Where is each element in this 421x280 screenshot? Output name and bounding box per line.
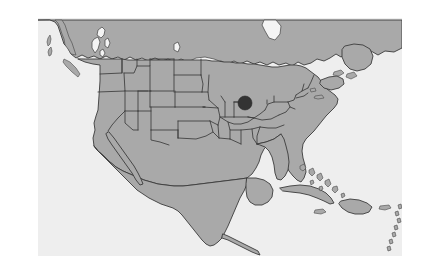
lesser-antilles-7 bbox=[387, 246, 391, 251]
location-marker[interactable] bbox=[238, 96, 252, 110]
cape-cod bbox=[310, 88, 316, 92]
haida-gwaii-south bbox=[48, 47, 52, 56]
bahamas-5 bbox=[332, 186, 338, 193]
yucatan-peninsula bbox=[246, 178, 273, 205]
bahamas-2 bbox=[309, 168, 315, 176]
puerto-rico bbox=[379, 205, 391, 210]
lesser-antilles-1 bbox=[398, 204, 402, 209]
bahamas-3 bbox=[317, 173, 323, 181]
hispaniola bbox=[339, 199, 372, 214]
prince-edward-island bbox=[333, 70, 344, 76]
lesser-antilles-5 bbox=[392, 232, 396, 237]
central-america-isthmus bbox=[222, 234, 260, 255]
vancouver-island bbox=[63, 59, 80, 77]
north-america-map bbox=[38, 18, 402, 256]
jamaica bbox=[314, 209, 326, 214]
queen-charlotte-island bbox=[47, 35, 51, 46]
lesser-antilles-3 bbox=[397, 218, 401, 223]
lesser-antilles-6 bbox=[389, 239, 393, 244]
bahamas-6 bbox=[310, 180, 314, 185]
bahamas-4 bbox=[325, 179, 331, 187]
bahamas-8 bbox=[341, 193, 345, 198]
newfoundland bbox=[342, 44, 373, 71]
cuba bbox=[280, 185, 334, 204]
map-canvas bbox=[38, 18, 402, 256]
united-states-landmass bbox=[78, 59, 338, 186]
map-figure bbox=[0, 0, 421, 280]
lesser-antilles-4 bbox=[394, 225, 398, 230]
nova-scotia bbox=[320, 76, 344, 90]
lesser-antilles-2 bbox=[395, 211, 399, 216]
bahamas-7 bbox=[319, 186, 323, 191]
cape-breton bbox=[346, 72, 357, 79]
